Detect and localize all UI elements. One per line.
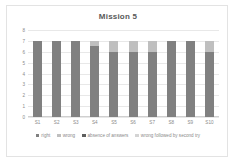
- x-axis-tick-label: S10: [198, 120, 220, 125]
- bar-segment: [129, 41, 138, 52]
- bar-segment: [109, 52, 118, 117]
- legend-swatch-icon: [82, 134, 85, 137]
- y-axis-tick-label: 1: [22, 104, 25, 109]
- bar-stack: [109, 41, 118, 117]
- gridline: [28, 30, 219, 31]
- bar-segment: [52, 41, 61, 117]
- legend-label: right: [41, 133, 50, 138]
- bar-segment: [71, 41, 80, 117]
- legend-swatch-icon: [135, 134, 138, 137]
- bar-stack: [52, 41, 61, 117]
- bar-stack: [205, 41, 214, 117]
- bar-segment: [148, 41, 157, 52]
- legend-item[interactable]: absence of answers: [82, 133, 128, 138]
- legend-item[interactable]: right: [36, 133, 50, 138]
- bar-segment: [109, 41, 118, 52]
- bar-segment: [167, 41, 176, 117]
- y-axis-tick-label: 4: [22, 71, 25, 76]
- y-axis-tick-label: 3: [22, 82, 25, 87]
- bar-segment: [148, 52, 157, 117]
- legend-item[interactable]: wrong: [57, 133, 75, 138]
- plot-area: 012345678 S1S2S3S4S5S6S7S8S9S10: [28, 30, 219, 117]
- bar-stack: [129, 41, 138, 117]
- bar-stack: [148, 41, 157, 117]
- bar-stack: [71, 41, 80, 117]
- chart-legend: rightwrongabsence of answerswrong follow…: [7, 133, 229, 138]
- bar-segment: [205, 41, 214, 52]
- chart-title: Mission 5: [7, 12, 229, 21]
- bar-stack: [186, 41, 195, 117]
- bar-segment: [33, 41, 42, 117]
- y-axis-tick-label: 7: [22, 38, 25, 43]
- gridline: [28, 117, 219, 118]
- bar-segment: [129, 52, 138, 117]
- bar-segment: [205, 52, 214, 117]
- bar-stack: [90, 41, 99, 117]
- y-axis-tick-label: 0: [22, 115, 25, 120]
- y-axis-tick-label: 6: [22, 49, 25, 54]
- chart-container: Mission 5 012345678 S1S2S3S4S5S6S7S8S9S1…: [6, 5, 228, 157]
- bar-stack: [167, 41, 176, 117]
- legend-swatch-icon: [36, 134, 39, 137]
- legend-label: absence of answers: [88, 133, 129, 138]
- y-axis-tick-label: 5: [22, 60, 25, 65]
- bar-segment: [90, 46, 99, 117]
- y-axis-tick-label: 8: [22, 28, 25, 33]
- legend-item[interactable]: wrong followed by second try: [135, 133, 200, 138]
- legend-swatch-icon: [57, 134, 60, 137]
- legend-label: wrong followed by second try: [141, 133, 200, 138]
- bar-segment: [186, 41, 195, 117]
- legend-label: wrong: [63, 133, 76, 138]
- y-axis-tick-label: 2: [22, 93, 25, 98]
- bar-stack: [33, 41, 42, 117]
